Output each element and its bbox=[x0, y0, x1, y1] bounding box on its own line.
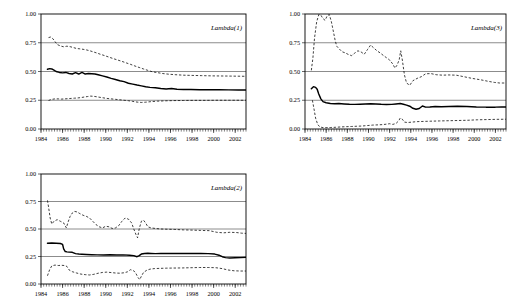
xtick-label-1984: 1984 bbox=[35, 290, 47, 297]
xtick-label-1986: 1986 bbox=[56, 290, 68, 297]
chart-panel-lambda3: 0.000.250.500.751.0019841986198819901992… bbox=[264, 0, 528, 155]
series-group bbox=[47, 200, 246, 279]
ytick-label-0.25: 0.25 bbox=[25, 96, 36, 103]
xtick-label-1998: 1998 bbox=[186, 290, 198, 297]
xtick-label-1992: 1992 bbox=[383, 135, 395, 142]
panel-annotation-lambda2: Lambda(2) bbox=[210, 184, 243, 192]
ytick-label-0.50: 0.50 bbox=[289, 68, 300, 75]
ytick-label-0.75: 0.75 bbox=[289, 39, 300, 46]
panel-annotation-lambda3: Lambda(3) bbox=[470, 24, 503, 32]
xtick-label-2002: 2002 bbox=[229, 290, 241, 297]
chart-svg-lambda1: 0.000.250.500.751.0019841986198819901992… bbox=[0, 0, 258, 155]
ytick-label-1.00: 1.00 bbox=[25, 10, 36, 17]
series-line-upper-band bbox=[47, 200, 246, 237]
xtick-label-1998: 1998 bbox=[186, 135, 198, 142]
series-line-point-estimate bbox=[311, 87, 506, 110]
xtick-label-2002: 2002 bbox=[489, 135, 501, 142]
xtick-label-1994: 1994 bbox=[405, 135, 417, 142]
chart-panel-lambda2: 0.000.250.500.751.0019841986198819901992… bbox=[0, 160, 258, 307]
series-line-lower-band bbox=[47, 265, 246, 280]
xtick-label-1990: 1990 bbox=[100, 290, 112, 297]
xtick-label-1986: 1986 bbox=[56, 135, 68, 142]
xtick-label-1984: 1984 bbox=[299, 135, 311, 142]
xtick-label-1988: 1988 bbox=[341, 135, 353, 142]
xtick-label-2000: 2000 bbox=[468, 135, 480, 142]
xtick-label-1990: 1990 bbox=[100, 135, 112, 142]
chart-panel-lambda1: 0.000.250.500.751.0019841986198819901992… bbox=[0, 0, 258, 155]
xtick-label-1994: 1994 bbox=[143, 135, 155, 142]
ytick-label-1.00: 1.00 bbox=[25, 170, 36, 177]
ytick-label-0.50: 0.50 bbox=[25, 225, 36, 232]
xtick-label-1994: 1994 bbox=[143, 290, 155, 297]
xtick-label-1986: 1986 bbox=[320, 135, 332, 142]
xtick-label-2002: 2002 bbox=[229, 135, 241, 142]
chart-svg-lambda2: 0.000.250.500.751.0019841986198819901992… bbox=[0, 160, 258, 307]
ytick-label-1.00: 1.00 bbox=[289, 10, 300, 17]
ytick-label-0.75: 0.75 bbox=[25, 198, 36, 205]
xtick-label-1990: 1990 bbox=[362, 135, 374, 142]
chart-svg-lambda3: 0.000.250.500.751.0019841986198819901992… bbox=[264, 0, 528, 155]
xtick-label-1992: 1992 bbox=[121, 135, 133, 142]
ytick-label-0.00: 0.00 bbox=[289, 125, 300, 132]
xtick-label-1996: 1996 bbox=[426, 135, 438, 142]
ytick-label-0.00: 0.00 bbox=[25, 125, 36, 132]
series-line-point-estimate bbox=[47, 243, 246, 258]
ytick-label-0.00: 0.00 bbox=[25, 280, 36, 287]
xtick-label-1988: 1988 bbox=[78, 135, 90, 142]
xtick-label-1996: 1996 bbox=[164, 135, 176, 142]
xtick-label-1996: 1996 bbox=[164, 290, 176, 297]
xtick-label-2000: 2000 bbox=[207, 290, 219, 297]
ytick-label-0.25: 0.25 bbox=[289, 96, 300, 103]
xtick-label-2000: 2000 bbox=[207, 135, 219, 142]
series-line-lower-band bbox=[49, 96, 246, 102]
xtick-label-1992: 1992 bbox=[121, 290, 133, 297]
xtick-label-1984: 1984 bbox=[35, 135, 47, 142]
series-group bbox=[47, 37, 246, 102]
ytick-label-0.25: 0.25 bbox=[25, 253, 36, 260]
ytick-label-0.75: 0.75 bbox=[25, 39, 36, 46]
panel-annotation-lambda1: Lambda(1) bbox=[210, 24, 243, 32]
xtick-label-1998: 1998 bbox=[447, 135, 459, 142]
xtick-label-1988: 1988 bbox=[78, 290, 90, 297]
ytick-label-0.50: 0.50 bbox=[25, 68, 36, 75]
